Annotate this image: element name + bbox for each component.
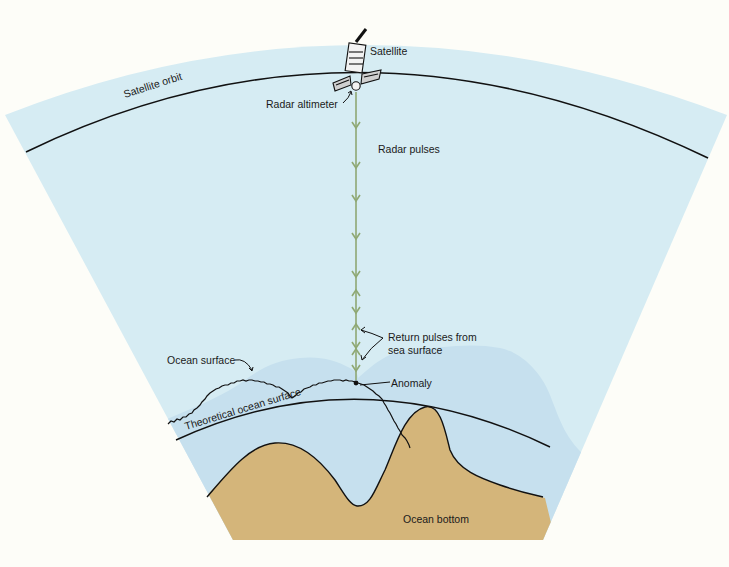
anomaly-point (354, 381, 359, 386)
radar-altimeter-label: Radar altimeter (266, 98, 338, 110)
ocean-bottom-label: Ocean bottom (403, 513, 469, 525)
anomaly-label: Anomaly (391, 377, 433, 389)
return-pulses-label-line1: Return pulses from (388, 331, 477, 343)
altimetry-diagram: Satellite Satellite orbit Radar altimete… (0, 0, 729, 567)
ocean-surface-label: Ocean surface (167, 354, 235, 366)
satellite-label: Satellite (370, 45, 408, 57)
return-pulses-label-line2: sea surface (388, 344, 442, 356)
radar-pulses-label: Radar pulses (378, 143, 440, 155)
